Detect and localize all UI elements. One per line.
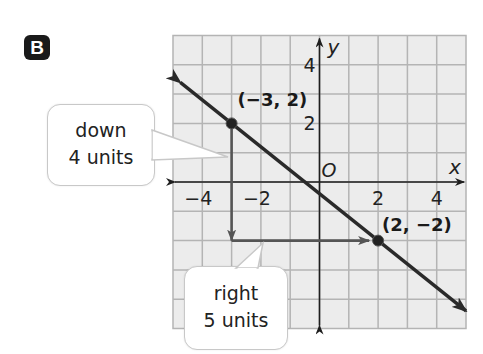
point-label: (2, −2) bbox=[382, 214, 452, 235]
callout-right-line2: 5 units bbox=[185, 307, 287, 334]
x-tick-label: 4 bbox=[431, 187, 443, 209]
callout-down-4-units: down 4 units bbox=[47, 104, 155, 186]
point-label: (−3, 2) bbox=[238, 89, 308, 110]
point-marker bbox=[226, 118, 237, 129]
x-axis-label: x bbox=[448, 155, 461, 179]
callout-down-line1: down bbox=[48, 117, 154, 144]
origin-label: O bbox=[322, 159, 337, 181]
graph-figure: B −4−22442xyO(−3, 2)(2, −2) down 4 units… bbox=[0, 0, 483, 354]
callout-down-line2: 4 units bbox=[48, 144, 154, 171]
x-tick-label: −4 bbox=[184, 187, 212, 209]
x-tick-label: −2 bbox=[243, 187, 271, 209]
callout-right-5-units: right 5 units bbox=[184, 266, 288, 350]
y-axis-label: y bbox=[327, 35, 341, 59]
y-tick-label: 4 bbox=[303, 54, 315, 76]
x-tick-label: 2 bbox=[372, 187, 384, 209]
callout-right-line1: right bbox=[185, 280, 287, 307]
y-tick-label: 2 bbox=[303, 112, 315, 134]
point-marker bbox=[373, 235, 384, 246]
